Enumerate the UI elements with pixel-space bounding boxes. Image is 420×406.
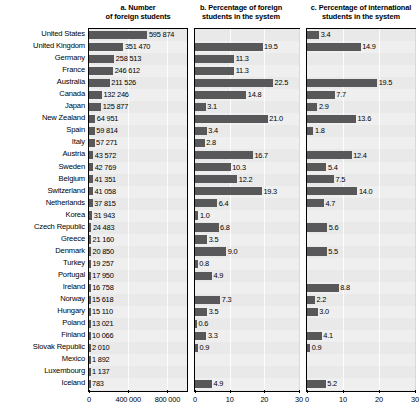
country-label: New Zealand — [0, 112, 88, 124]
value-bar — [89, 380, 91, 388]
value-bar — [89, 199, 93, 207]
value-bar — [195, 55, 234, 63]
value-bar — [89, 151, 93, 159]
country-label: Belgium — [0, 173, 88, 185]
value-bar — [89, 211, 92, 219]
bar-row — [195, 366, 299, 378]
country-label: Switzerland — [0, 185, 88, 197]
country-label: Japan — [0, 100, 88, 112]
bar-value-label: 14.0 — [359, 186, 373, 198]
value-bar — [307, 175, 334, 183]
bar-row: 3.4 — [195, 125, 299, 137]
value-bar — [89, 223, 91, 231]
value-bar — [89, 31, 147, 39]
bar-row: 4.7 — [307, 198, 415, 210]
value-bar — [195, 235, 207, 243]
panel-b-x-axis: 0102030 — [194, 393, 300, 406]
bar-value-label: 9.0 — [228, 246, 238, 258]
bar-value-label: 37 815 — [94, 198, 115, 210]
panel-a-x-axis: 0400 000800 000 — [88, 393, 188, 406]
country-label: Ireland — [0, 281, 88, 293]
bar-value-label: 2.9 — [319, 101, 329, 113]
bar-row: 2.2 — [307, 294, 415, 306]
value-bar — [195, 332, 206, 340]
bar-row — [307, 318, 415, 330]
axis-tickmark — [230, 390, 231, 393]
value-bar — [195, 127, 207, 135]
bar-value-label: 5.4 — [328, 162, 338, 174]
bar-row: 1 892 — [89, 354, 187, 366]
bar-row: 19.3 — [195, 186, 299, 198]
bar-value-label: 19 257 — [92, 258, 113, 270]
bar-value-label: 0.9 — [200, 342, 210, 354]
country-label: Czech Republic — [0, 221, 88, 233]
bar-row: 24 483 — [89, 222, 187, 234]
value-bar — [195, 79, 273, 87]
bar-row: 15 110 — [89, 306, 187, 318]
country-label: Korea — [0, 209, 88, 221]
bar-value-label: 22.5 — [275, 77, 289, 89]
bar-row: 2.8 — [195, 137, 299, 149]
bar-row — [307, 234, 415, 246]
value-bar — [89, 43, 123, 51]
bar-value-label: 4.7 — [325, 198, 335, 210]
value-bar — [307, 332, 322, 340]
bar-row: 43 572 — [89, 150, 187, 162]
value-bar — [89, 91, 102, 99]
bar-value-label: 7.7 — [336, 89, 346, 101]
bar-value-label: 16 758 — [92, 282, 113, 294]
bar-row — [307, 366, 415, 378]
bar-value-label: 0.9 — [312, 342, 322, 354]
country-label: Luxembourg — [0, 365, 88, 377]
bar-row: 4.1 — [307, 330, 415, 342]
panel-a-rows: 595 874351 470258 513246 612211 526132 2… — [89, 29, 187, 391]
value-bar — [89, 332, 91, 340]
value-bar — [195, 260, 198, 268]
bar-value-label: 595 874 — [149, 29, 174, 41]
country-label: United States — [0, 28, 88, 40]
value-bar — [307, 223, 327, 231]
bar-row: 8.8 — [307, 282, 415, 294]
country-label: Denmark — [0, 245, 88, 257]
bar-value-label: 13.6 — [357, 113, 371, 125]
value-bar — [307, 127, 313, 135]
value-bar — [307, 296, 315, 304]
bar-row: 0.9 — [307, 342, 415, 354]
bar-row: 1.0 — [195, 210, 299, 222]
value-bar — [307, 163, 326, 171]
bar-value-label: 6.8 — [220, 222, 230, 234]
value-bar — [307, 43, 361, 51]
country-label: Australia — [0, 76, 88, 88]
bar-row: 0.6 — [195, 318, 299, 330]
country-label: Mexico — [0, 353, 88, 365]
bar-value-label: 10.3 — [232, 162, 246, 174]
bar-row — [307, 210, 415, 222]
bar-row — [307, 137, 415, 149]
bar-value-label: 1 892 — [92, 354, 110, 366]
value-bar — [307, 308, 318, 316]
axis-tick-label: 20 — [375, 395, 383, 404]
bar-value-label: 19.5 — [264, 41, 278, 53]
bar-row: 59 814 — [89, 125, 187, 137]
bar-value-label: 12.4 — [353, 150, 367, 162]
bar-value-label: 16.7 — [254, 150, 268, 162]
bar-row: 19 257 — [89, 258, 187, 270]
value-bar — [307, 103, 317, 111]
panel-b-title-line: b. Percentage of foreign — [182, 3, 300, 12]
axis-tick-label: 20 — [260, 395, 268, 404]
bar-value-label: 41 058 — [95, 186, 116, 198]
value-bar — [307, 187, 357, 195]
value-bar — [89, 175, 93, 183]
bar-row — [307, 53, 415, 65]
axis-tickmark — [89, 390, 90, 393]
bar-row: 41 058 — [89, 186, 187, 198]
country-label: Sweden — [0, 161, 88, 173]
bar-row: 19.5 — [195, 41, 299, 53]
bar-value-label: 31 943 — [94, 210, 115, 222]
bar-value-label: 5.2 — [327, 378, 337, 390]
bar-row: 22.5 — [195, 77, 299, 89]
bar-value-label: 125 877 — [103, 101, 128, 113]
axis-tick-label: 30 — [295, 395, 303, 404]
bar-row: 7.7 — [307, 89, 415, 101]
